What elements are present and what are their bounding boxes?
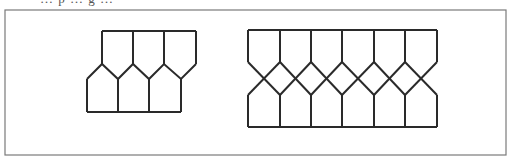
left-pattern	[87, 31, 196, 112]
right-pattern	[248, 30, 437, 127]
tiling-diagram	[0, 0, 510, 160]
figure-frame	[5, 10, 506, 155]
